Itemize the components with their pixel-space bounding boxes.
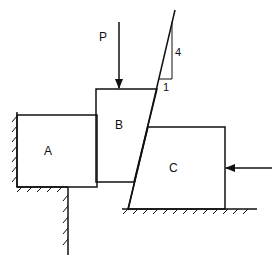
diagram-canvas: P A B C 4 1 [0,0,279,267]
block-a [17,115,97,187]
incline-line [128,10,175,210]
block-b-label: B [115,119,123,131]
slope-rise-label: 4 [175,47,181,58]
slope-run-label: 1 [163,82,169,93]
block-a-label: A [44,145,52,157]
block-b [96,89,157,182]
block-c-label: C [169,162,178,174]
diagram-drawing [0,0,279,267]
load-p-label: P [99,31,107,43]
